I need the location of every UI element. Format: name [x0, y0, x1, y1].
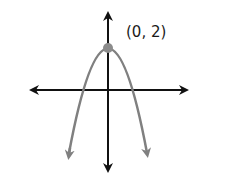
graph-canvas	[0, 0, 228, 180]
vertex-label: (0, 2)	[126, 23, 166, 41]
parabola-diagram: (0, 2)	[0, 0, 228, 180]
vertex-point	[103, 43, 113, 53]
